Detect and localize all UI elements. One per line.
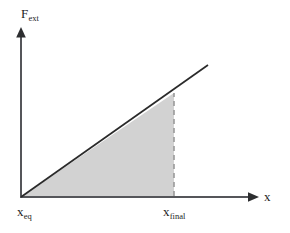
y-axis-label-sub: ext: [28, 13, 38, 23]
x-tick-label-xfinal-main: x: [163, 204, 170, 219]
x-tick-label-xeq-main: x: [17, 204, 24, 219]
y-axis-label: Fext: [21, 7, 39, 20]
x-axis-arrowhead-icon: [248, 192, 259, 202]
force-displacement-figure: Fext x xeq xfinal: [0, 0, 290, 233]
y-axis-arrowhead-icon: [16, 27, 26, 38]
x-tick-label-xeq: xeq: [17, 205, 32, 218]
plot-canvas: [0, 0, 290, 233]
x-axis-label: x: [264, 190, 271, 203]
x-tick-label-xfinal: xfinal: [163, 205, 185, 218]
x-tick-label-xeq-sub: eq: [24, 211, 32, 221]
x-tick-label-xfinal-sub: final: [170, 211, 186, 221]
